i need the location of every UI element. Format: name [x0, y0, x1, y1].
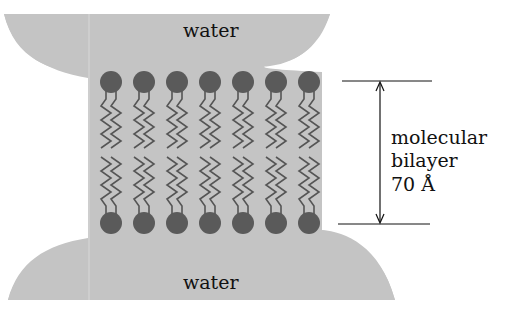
bilayer-label-line2: bilayer	[391, 149, 458, 171]
lipid-head	[133, 71, 155, 93]
lipid-head	[199, 71, 221, 93]
lipid-head	[298, 71, 320, 93]
lipid-head	[133, 212, 155, 234]
water-region-main	[4, 14, 395, 300]
lipid-head	[265, 71, 287, 93]
lipid-head	[166, 212, 188, 234]
lipid-head	[232, 71, 254, 93]
lipid-head	[232, 212, 254, 234]
bilayer-label-line1: molecular	[391, 126, 487, 148]
lipid-head	[298, 212, 320, 234]
lipid-head	[265, 212, 287, 234]
water-label-bottom: water	[183, 271, 239, 293]
water-label-top: water	[183, 19, 239, 41]
lipid-head	[199, 212, 221, 234]
lipid-head	[166, 71, 188, 93]
lipid-head	[100, 212, 122, 234]
bilayer-thickness-label: 70 Å	[391, 173, 435, 195]
lipid-head	[100, 71, 122, 93]
